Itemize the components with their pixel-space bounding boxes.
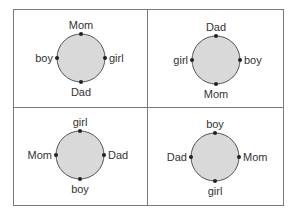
label-left: Mom — [28, 149, 52, 161]
seat-dot-right — [238, 58, 242, 62]
label-bottom: girl — [208, 185, 223, 197]
label-bottom: Mom — [204, 88, 228, 100]
seat-dot-right — [102, 153, 106, 157]
seat-dot-left — [55, 56, 59, 60]
seat-dot-top — [214, 34, 218, 38]
label-top: girl — [73, 116, 88, 128]
label-left: girl — [173, 54, 188, 66]
label-bottom: Dad — [71, 86, 91, 98]
table-circle — [191, 133, 239, 181]
seat-dot-top — [79, 32, 83, 36]
panel-2: Dad Mom girl boy — [173, 21, 262, 100]
table-circle — [57, 34, 105, 82]
seat-dot-bottom — [78, 177, 82, 181]
seat-dot-left — [190, 58, 194, 62]
label-bottom: boy — [71, 183, 89, 195]
label-top: Dad — [206, 21, 226, 33]
seat-dot-bottom — [213, 179, 217, 183]
label-top: boy — [206, 118, 224, 130]
seat-dot-bottom — [214, 82, 218, 86]
seat-dot-left — [189, 155, 193, 159]
label-right: Dad — [108, 149, 128, 161]
table-circle — [192, 36, 240, 84]
seat-dot-top — [78, 129, 82, 133]
panel-1: Mom Dad boy girl — [35, 19, 123, 98]
seat-dot-right — [237, 155, 241, 159]
seat-dot-top — [213, 131, 217, 135]
seat-dot-right — [103, 56, 107, 60]
panel-4: boy girl Dad Mom — [167, 118, 268, 197]
label-right: Mom — [243, 151, 267, 163]
seating-diagram: Mom Dad boy girl Dad Mom girl boy girl b… — [0, 0, 295, 215]
label-left: Dad — [167, 151, 187, 163]
label-left: boy — [35, 52, 53, 64]
label-top: Mom — [69, 19, 93, 31]
seat-dot-left — [54, 153, 58, 157]
seat-dot-bottom — [79, 80, 83, 84]
table-circle — [56, 131, 104, 179]
label-right: girl — [109, 52, 124, 64]
panel-3: girl boy Mom Dad — [28, 116, 129, 195]
label-right: boy — [244, 54, 262, 66]
